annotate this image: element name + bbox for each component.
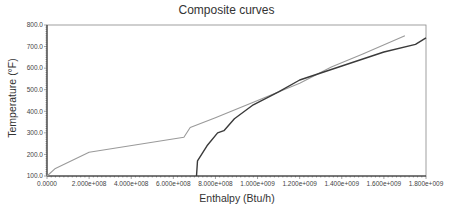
x-tick-label: 1.600e+009 — [367, 180, 402, 187]
x-tick-label: 1.200e+009 — [282, 180, 317, 187]
x-tick-label: 2.000e+008 — [72, 180, 107, 187]
x-tick-label: 0.0000 — [37, 180, 57, 187]
y-tick-label: 700.0 — [27, 43, 44, 50]
x-tick-label: 1.000e+009 — [240, 180, 275, 187]
x-tick-label: 4.000e+008 — [114, 180, 149, 187]
cold-composite-curve — [197, 38, 427, 176]
x-tick-label: 1.800e+009 — [409, 180, 444, 187]
y-tick-label: 400.0 — [27, 108, 44, 115]
y-tick-label: 800.0 — [27, 21, 44, 28]
y-tick-label: 200.0 — [27, 151, 44, 158]
x-tick-label: 6.000e+008 — [156, 180, 191, 187]
y-tick-label: 600.0 — [27, 64, 44, 71]
x-tick-label: 1.400e+009 — [325, 180, 360, 187]
y-tick-label: 500.0 — [27, 86, 44, 93]
hot-composite-curve — [47, 36, 405, 176]
x-tick-label: 8.000e+008 — [198, 180, 233, 187]
y-tick-label: 300.0 — [27, 129, 44, 136]
plot-frame — [47, 25, 426, 176]
y-tick-label: 100.0 — [27, 172, 44, 179]
plot-area: 100.0200.0300.0400.0500.0600.0700.0800.0… — [0, 0, 453, 211]
